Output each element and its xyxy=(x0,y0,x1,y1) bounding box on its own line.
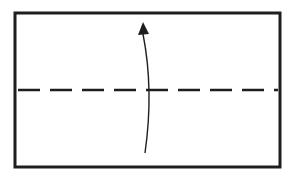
fold-diagram xyxy=(0,0,293,179)
